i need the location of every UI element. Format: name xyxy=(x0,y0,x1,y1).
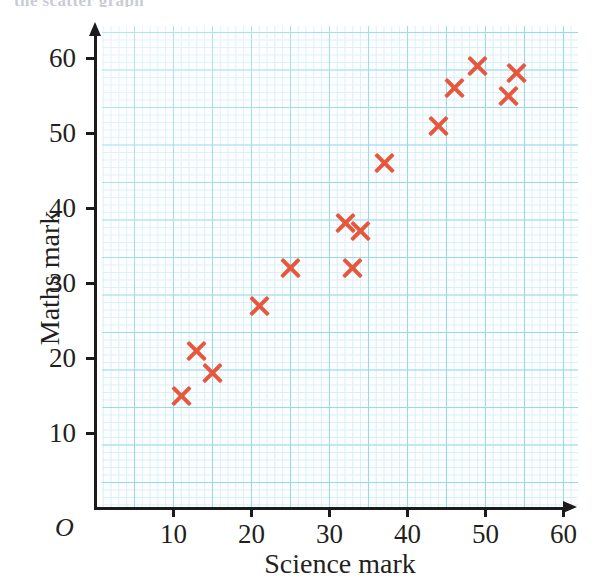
x-axis-arrow-icon xyxy=(563,501,577,513)
top-cutoff-text: the scatter graph xyxy=(14,0,264,7)
y-axis-title: Maths mark xyxy=(34,138,66,418)
scatter-graph-figure: the scatter graph O 10203040506010203040… xyxy=(0,0,594,586)
y-axis-tick xyxy=(86,432,96,435)
x-axis-tick xyxy=(328,507,331,517)
graph-paper-grid xyxy=(102,26,578,508)
x-axis-tick xyxy=(172,507,175,517)
x-axis-tick-label: 10 xyxy=(144,521,204,548)
y-axis-tick xyxy=(86,282,96,285)
x-axis-line xyxy=(94,507,568,510)
origin-label: O xyxy=(55,513,74,543)
y-axis-tick xyxy=(86,132,96,135)
x-axis-tick xyxy=(250,507,253,517)
x-axis-tick-label: 50 xyxy=(456,521,516,548)
y-axis-arrow-icon xyxy=(89,22,101,36)
x-axis-tick-label: 20 xyxy=(222,521,282,548)
y-axis-tick-label: 60 xyxy=(16,45,76,72)
x-axis-tick-label: 30 xyxy=(300,521,360,548)
x-axis-tick xyxy=(484,507,487,517)
x-axis-tick xyxy=(562,507,565,517)
x-axis-tick-label: 40 xyxy=(378,521,438,548)
x-axis-title: Science mark xyxy=(102,548,578,580)
y-axis-tick xyxy=(86,57,96,60)
y-axis-line xyxy=(94,34,97,510)
y-axis-tick xyxy=(86,357,96,360)
y-axis-tick xyxy=(86,207,96,210)
x-axis-tick xyxy=(406,507,409,517)
x-axis-tick-label: 60 xyxy=(534,521,594,548)
y-axis-tick-label: 10 xyxy=(16,420,76,447)
